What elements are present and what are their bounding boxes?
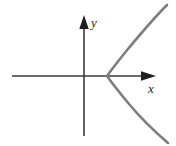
x-axis-arrowhead	[141, 71, 156, 81]
y-axis-arrowhead	[79, 15, 88, 29]
parabola-lower-branch	[107, 76, 168, 143]
graph-figure: y x	[0, 0, 176, 146]
y-axis-label: y	[89, 15, 97, 30]
x-axis-label: x	[147, 81, 154, 96]
coordinate-plane-svg: y x	[0, 0, 176, 146]
parabola-upper-branch	[107, 5, 167, 76]
